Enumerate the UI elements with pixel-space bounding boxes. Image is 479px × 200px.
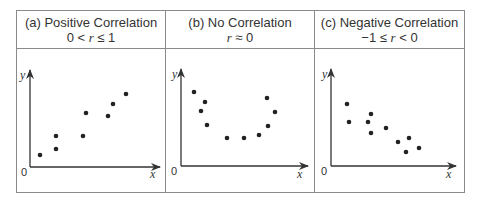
scatter-point: [347, 120, 352, 125]
scatter-point: [345, 102, 350, 107]
x-axis-label: x: [445, 167, 452, 181]
scatter-point: [111, 102, 116, 107]
data-points: [38, 90, 422, 158]
x-axis-label: x: [149, 167, 156, 181]
scatter-point: [84, 111, 89, 116]
axes-panel-b: y x 0: [171, 67, 308, 181]
scatter-point: [273, 110, 278, 115]
scatter-point: [199, 109, 204, 114]
scatter-point: [106, 114, 111, 119]
scatter-point: [54, 134, 59, 139]
scatter-point: [396, 140, 401, 145]
scatter-point: [81, 134, 86, 139]
y-axis-label: y: [321, 67, 328, 81]
scatter-point: [124, 92, 129, 97]
scatter-point: [366, 120, 371, 125]
origin-label: 0: [321, 165, 327, 177]
scatter-point: [225, 136, 230, 141]
scatter-point: [384, 126, 389, 131]
x-axis-label: x: [296, 167, 303, 181]
origin-label: 0: [171, 165, 177, 177]
scatter-point: [266, 124, 271, 129]
scatter-point: [369, 112, 374, 117]
scatter-point: [205, 123, 210, 128]
scatter-point: [192, 90, 197, 95]
scatter-point: [404, 150, 409, 155]
scatter-point: [242, 136, 247, 141]
axes-panel-c: y x 0: [321, 67, 456, 181]
y-axis-label: y: [19, 68, 26, 82]
scatter-point: [369, 131, 374, 136]
scatter-point: [257, 133, 262, 138]
scatter-point: [203, 100, 208, 105]
scatter-plots: y x 0 y x 0 y x 0: [0, 0, 479, 200]
scatter-point: [54, 147, 59, 152]
axes-panel-a: y x 0: [19, 68, 160, 181]
y-axis-label: y: [171, 67, 178, 81]
origin-label: 0: [21, 166, 27, 178]
scatter-point: [38, 153, 43, 158]
scatter-point: [265, 96, 270, 101]
scatter-point: [417, 146, 422, 151]
scatter-point: [407, 136, 412, 141]
